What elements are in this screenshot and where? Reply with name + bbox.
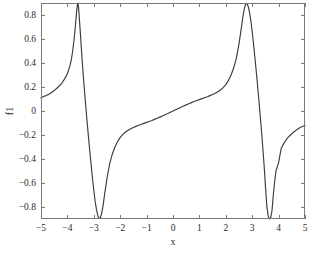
y-tick-label: −0.6 <box>19 178 36 188</box>
y-tick-label: −0.8 <box>19 202 36 212</box>
x-tick-label: 2 <box>223 223 228 233</box>
x-tick-label: −4 <box>62 223 72 233</box>
x-tick-label: −1 <box>142 223 152 233</box>
x-tick-label: 5 <box>303 223 308 233</box>
x-tick-label: −2 <box>115 223 125 233</box>
y-axis-label: f1 <box>4 107 15 115</box>
x-tick-label: 1 <box>197 223 202 233</box>
x-axis-label: x <box>171 236 176 247</box>
x-tick-label: 0 <box>171 223 176 233</box>
x-tick-label: 3 <box>250 223 255 233</box>
y-tick-label: −0.4 <box>19 154 36 164</box>
x-tick-label: 4 <box>276 223 281 233</box>
figure-canvas: −5−4−3−2−1012345 0.80.60.40.20−0.2−0.4−0… <box>0 0 318 254</box>
y-tick-label: 0 <box>31 106 36 116</box>
y-tick-label: −0.2 <box>19 130 36 140</box>
y-tick-label: 0.4 <box>24 58 36 68</box>
x-tick-label: −5 <box>36 223 46 233</box>
y-tick-label: 0.8 <box>24 10 36 20</box>
x-tick-label: −3 <box>89 223 99 233</box>
y-tick-label: 0.6 <box>24 34 36 44</box>
line-chart: −5−4−3−2−1012345 0.80.60.40.20−0.2−0.4−0… <box>0 0 318 254</box>
y-tick-label: 0.2 <box>24 82 36 92</box>
